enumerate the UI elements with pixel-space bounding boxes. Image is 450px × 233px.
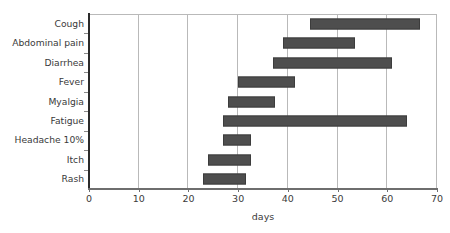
range-bar bbox=[223, 115, 407, 126]
y-axis-label: Abdominal pain bbox=[0, 39, 84, 48]
x-axis-tick-label: 70 bbox=[431, 194, 443, 204]
x-axis-tick bbox=[188, 188, 189, 192]
y-axis-tick bbox=[84, 53, 88, 54]
y-axis-tick bbox=[84, 170, 88, 171]
gridline-10 bbox=[138, 15, 139, 188]
y-axis-tick bbox=[84, 150, 88, 151]
y-axis-category-labels: CoughAbdominal painDiarrheaFeverMyalgiaF… bbox=[0, 14, 84, 189]
y-axis-label: Rash bbox=[0, 175, 84, 184]
y-axis-tick bbox=[84, 33, 88, 34]
x-axis-tick-label: 50 bbox=[332, 194, 344, 204]
y-axis-tick bbox=[84, 111, 88, 112]
y-axis-label: Diarrhea bbox=[0, 58, 84, 67]
x-axis-line bbox=[88, 188, 438, 190]
x-axis-tick-label: 10 bbox=[133, 194, 145, 204]
x-axis-tick bbox=[437, 188, 438, 192]
range-bar bbox=[310, 18, 419, 29]
x-axis-tick bbox=[89, 188, 90, 192]
range-bar bbox=[283, 38, 355, 49]
x-axis-tick-label: 0 bbox=[86, 194, 92, 204]
y-axis-line bbox=[88, 13, 90, 190]
y-axis-label: Cough bbox=[0, 19, 84, 28]
x-axis-tick bbox=[288, 188, 289, 192]
gridline-20 bbox=[187, 15, 188, 188]
x-axis-tick bbox=[387, 188, 388, 192]
x-axis-tick-label: 30 bbox=[232, 194, 244, 204]
y-axis-label: Itch bbox=[0, 155, 84, 164]
range-bar bbox=[273, 57, 392, 68]
x-axis-tick-label: 20 bbox=[182, 194, 194, 204]
x-axis-title: days bbox=[252, 212, 274, 222]
gridline-60 bbox=[386, 15, 387, 188]
y-axis-tick bbox=[84, 92, 88, 93]
y-axis-label: Headache 10% bbox=[0, 136, 84, 145]
x-axis-tick-label: 60 bbox=[381, 194, 393, 204]
range-bar bbox=[223, 135, 250, 146]
x-axis-tick-label: 40 bbox=[282, 194, 294, 204]
y-axis-label: Fever bbox=[0, 77, 84, 86]
x-axis-tick bbox=[139, 188, 140, 192]
y-axis-tick bbox=[84, 72, 88, 73]
x-axis-tick bbox=[238, 188, 239, 192]
range-bar bbox=[203, 174, 245, 185]
gantt-range-bar-chart: CoughAbdominal painDiarrheaFeverMyalgiaF… bbox=[0, 0, 450, 233]
range-bar bbox=[228, 96, 275, 107]
x-axis-tick bbox=[338, 188, 339, 192]
y-axis-label: Fatigue bbox=[0, 116, 84, 125]
y-axis-tick bbox=[84, 131, 88, 132]
y-axis-label: Myalgia bbox=[0, 97, 84, 106]
range-bar bbox=[238, 77, 295, 88]
range-bar bbox=[208, 154, 250, 165]
